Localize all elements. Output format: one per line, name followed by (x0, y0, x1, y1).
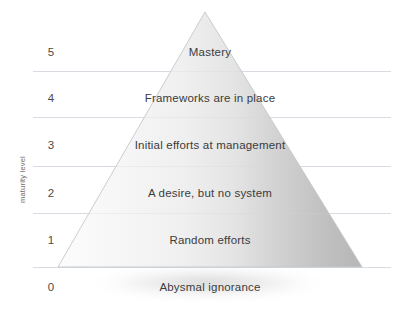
level-caption-1: Random efforts (60, 234, 360, 246)
y-axis-label: maturity level (18, 140, 27, 220)
level-caption-2: A desire, but no system (60, 187, 360, 199)
level-caption-5: Mastery (60, 46, 360, 58)
level-caption-0: Abysmal ignorance (60, 281, 360, 293)
level-caption-4: Frameworks are in place (60, 92, 360, 104)
level-caption-3: Initial efforts at management (60, 139, 360, 151)
maturity-pyramid-diagram: maturity level 5 4 3 2 1 0 Mastery Frame… (0, 0, 408, 322)
